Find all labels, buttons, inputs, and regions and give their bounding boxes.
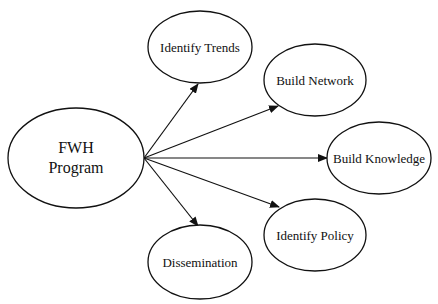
hub-label-fwh-program: FWH Program [48,138,103,178]
arrow-to-build-network [144,106,278,158]
hub-label-line1: FWH [48,138,103,158]
node-label-identify-trends: Identify Trends [160,39,240,56]
node-label-build-knowledge: Build Knowledge [333,150,425,167]
node-label-dissemination: Dissemination [162,254,237,271]
arrow-to-identify-policy [144,158,279,207]
node-label-build-network: Build Network [276,72,354,89]
node-label-identify-policy: Identify Policy [276,227,354,244]
hub-label-line2: Program [48,158,103,178]
